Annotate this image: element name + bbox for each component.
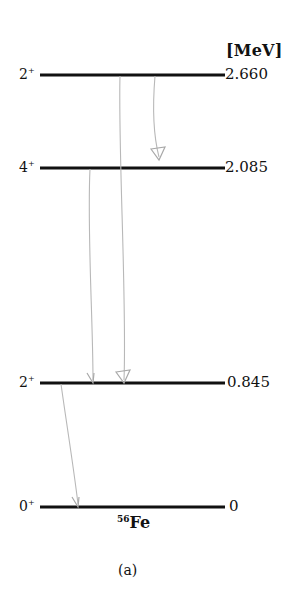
nucleus-label: 56Fe [117,513,150,532]
spin-label-level-0: 2+ [19,66,35,82]
energy-label-level-2: 0.845 [227,373,270,391]
gamma-transition-line [89,169,93,380]
energy-label-level-0: 2.660 [225,65,268,83]
spin-label-level-1: 4+ [19,159,35,175]
gamma-transition-line [61,384,78,504]
spin-label-level-3: 0+ [19,498,35,514]
spin-label-level-2: 2+ [19,374,35,390]
gamma-transition-line [154,76,159,157]
figure-caption: (a) [118,562,137,578]
arrowhead-icon [116,370,130,383]
gamma-transition-line [120,76,125,380]
energy-label-level-3: 0 [229,497,239,515]
energy-label-level-1: 2.085 [225,158,268,176]
unit-label: [MeV] [226,41,282,60]
